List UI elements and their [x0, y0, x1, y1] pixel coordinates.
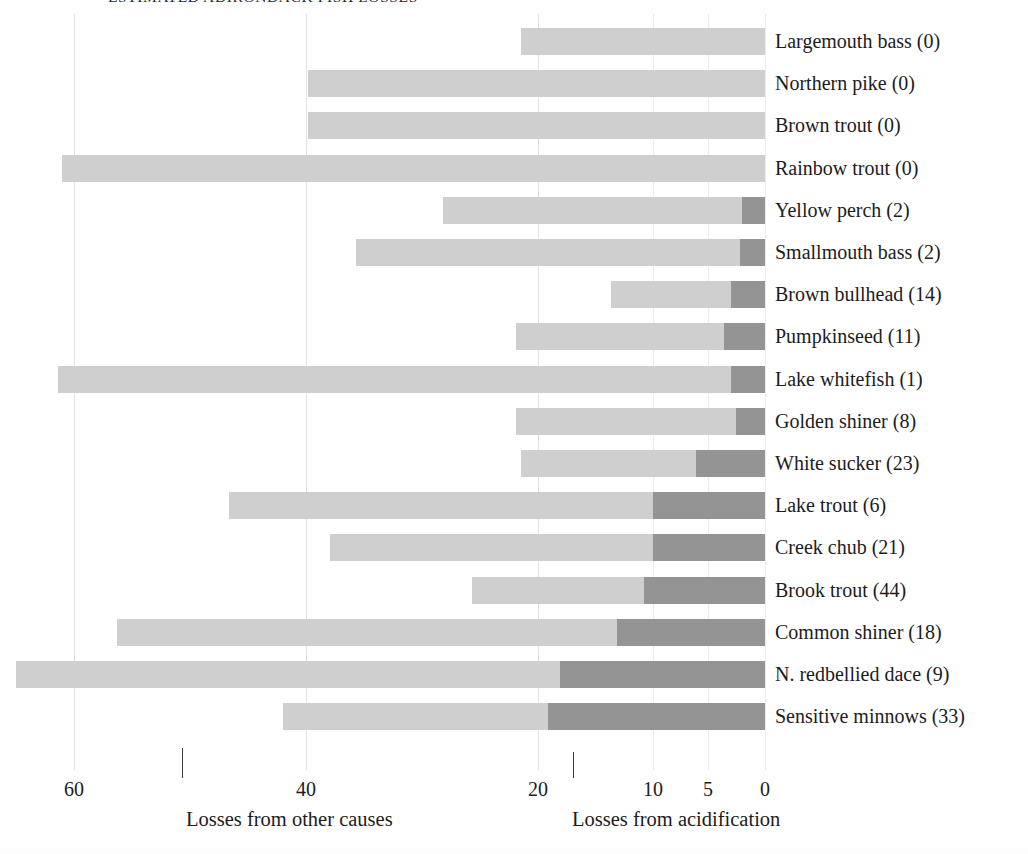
bar-segment-other-causes[interactable] [58, 366, 731, 393]
axis-caption-other-causes: Losses from other causes [186, 808, 393, 831]
bar-segment-other-causes[interactable] [16, 661, 560, 688]
bar-label-rainbow-trout: Rainbow trout (0) [775, 155, 918, 182]
bar-label-largemouth-bass: Largemouth bass (0) [775, 28, 940, 55]
bar-label-lake-whitefish: Lake whitefish (1) [775, 366, 923, 393]
axis-tick-label-0: 0 [735, 778, 795, 801]
bar-label-smallmouth-bass: Smallmouth bass (2) [775, 239, 941, 266]
bar-segment-other-causes[interactable] [62, 155, 765, 182]
bar-segment-other-causes[interactable] [330, 534, 653, 561]
bar-segment-acidification[interactable] [644, 577, 765, 604]
bar-segment-acidification[interactable] [617, 619, 765, 646]
chart-plot-area: Largemouth bass (0)Northern pike (0)Brow… [0, 0, 1028, 854]
axis-tick-50 [182, 748, 183, 778]
bar-label-sensitive-minnows: Sensitive minnows (33) [775, 703, 965, 730]
bar-label-creek-chub: Creek chub (21) [775, 534, 905, 561]
bar-segment-other-causes[interactable] [521, 28, 765, 55]
bar-segment-other-causes[interactable] [611, 281, 731, 308]
axis-tick-label-60: 60 [44, 778, 104, 801]
bar-segment-other-causes[interactable] [472, 577, 644, 604]
bar-segment-other-causes[interactable] [521, 450, 696, 477]
bar-segment-acidification[interactable] [724, 323, 765, 350]
bar-label-n-redbellied-dace: N. redbellied dace (9) [775, 661, 949, 688]
bar-segment-other-causes[interactable] [443, 197, 742, 224]
bar-label-lake-trout: Lake trout (6) [775, 492, 886, 519]
bar-segment-other-causes[interactable] [516, 408, 736, 435]
bar-segment-other-causes[interactable] [283, 703, 548, 730]
axis-tick-15 [573, 752, 574, 778]
bar-segment-other-causes[interactable] [308, 112, 765, 139]
bar-label-brown-bullhead: Brown bullhead (14) [775, 281, 942, 308]
bar-segment-acidification[interactable] [742, 197, 765, 224]
bar-segment-acidification[interactable] [740, 239, 765, 266]
bar-label-common-shiner: Common shiner (18) [775, 619, 942, 646]
bar-label-northern-pike: Northern pike (0) [775, 70, 915, 97]
bar-label-golden-shiner: Golden shiner (8) [775, 408, 916, 435]
bar-segment-acidification[interactable] [653, 492, 765, 519]
bar-segment-acidification[interactable] [696, 450, 765, 477]
bar-label-pumpkinseed: Pumpkinseed (11) [775, 323, 920, 350]
bar-segment-other-causes[interactable] [516, 323, 724, 350]
bar-segment-other-causes[interactable] [117, 619, 617, 646]
axis-tick-label-10: 10 [623, 778, 683, 801]
bar-label-white-sucker: White sucker (23) [775, 450, 919, 477]
bar-segment-acidification[interactable] [653, 534, 765, 561]
axis-tick-label-40: 40 [276, 778, 336, 801]
axis-caption-acidification: Losses from acidification [572, 808, 780, 831]
bar-segment-acidification[interactable] [731, 281, 765, 308]
bar-segment-other-causes[interactable] [308, 70, 765, 97]
bar-label-yellow-perch: Yellow perch (2) [775, 197, 910, 224]
bar-label-brook-trout: Brook trout (44) [775, 577, 906, 604]
bar-segment-acidification[interactable] [560, 661, 765, 688]
axis-tick-label-20: 20 [508, 778, 568, 801]
bar-segment-acidification[interactable] [731, 366, 765, 393]
bar-segment-acidification[interactable] [548, 703, 765, 730]
axis-tick-label-5: 5 [678, 778, 738, 801]
bar-label-brown-trout: Brown trout (0) [775, 112, 901, 139]
scan-edge [0, 848, 1028, 854]
bar-segment-other-causes[interactable] [356, 239, 740, 266]
bar-segment-other-causes[interactable] [229, 492, 653, 519]
bar-segment-acidification[interactable] [736, 408, 765, 435]
